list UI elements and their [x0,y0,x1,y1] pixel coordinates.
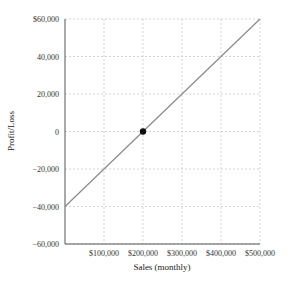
x-tick-label: $500,000 [245,249,275,258]
y-axis-tick-labels: $60,00040,00020,0000−20,000−40,000−60,00… [32,15,59,249]
x-axis-title: Sales (monthly) [133,262,190,272]
x-axis-tick-labels: $100,000$200,000$300,000$400,000$500,000 [89,249,275,258]
break-even-point [140,128,146,134]
x-tick-label: $200,000 [128,249,158,258]
grid-lines [65,19,260,244]
x-tick-label: $100,000 [89,249,119,258]
y-tick-label: −40,000 [32,203,59,212]
y-tick-label: $60,000 [33,15,59,24]
data-series [65,19,260,207]
x-tick-label: $300,000 [167,249,197,258]
y-tick-label: −60,000 [32,240,59,249]
y-tick-label: 0 [55,128,59,137]
y-tick-label: 40,000 [37,53,59,62]
x-tick-label: $400,000 [206,249,236,258]
y-tick-label: 20,000 [37,90,59,99]
profit-loss-line [65,19,260,207]
y-tick-label: −20,000 [32,165,59,174]
y-axis-title: Profit/Loss [6,111,16,152]
profit-loss-chart: $60,00040,00020,0000−20,000−40,000−60,00… [0,0,290,283]
